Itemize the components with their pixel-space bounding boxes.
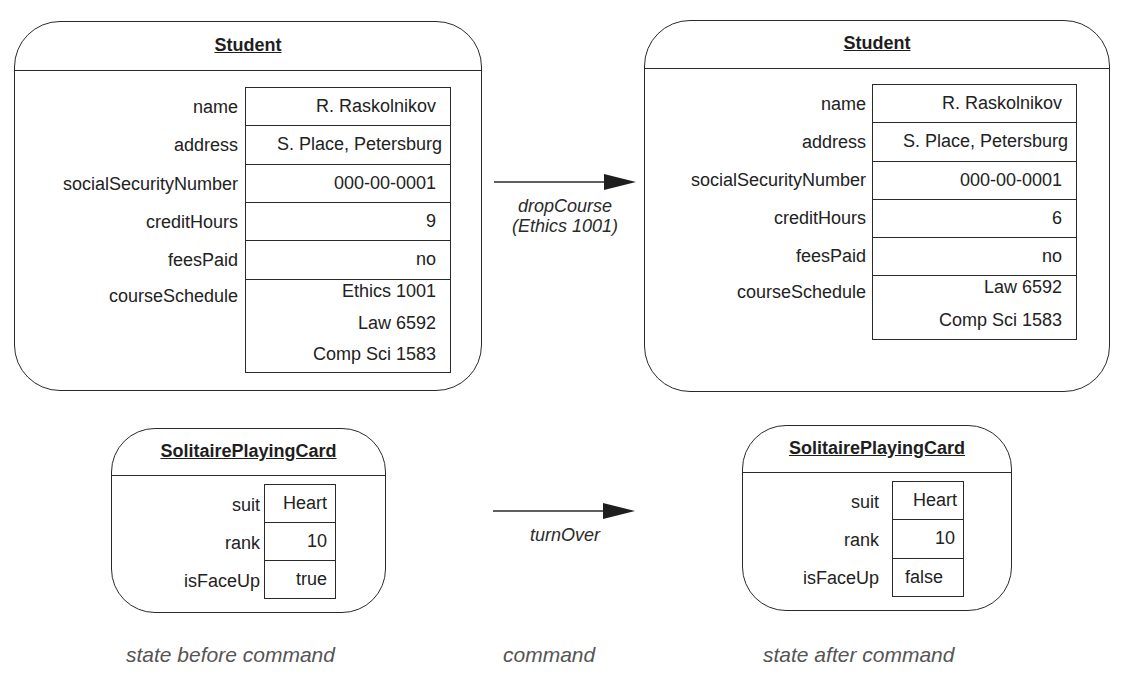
card-after-object: SolitairePlayingCard suit rank isFaceUp …: [742, 425, 1012, 611]
attr-label-ssn: socialSecurityNumber: [691, 170, 866, 191]
attribute-values-box: R. Raskolnikov S. Place, Petersburg 000-…: [872, 84, 1077, 340]
caption-state-after: state after command: [763, 643, 954, 667]
object-title: SolitairePlayingCard: [112, 441, 385, 462]
card-before-object: SolitairePlayingCard suit rank isFaceUp …: [111, 428, 386, 613]
attr-label-rank: rank: [844, 530, 879, 551]
object-title: Student: [15, 35, 481, 56]
command-label-turn-over: turnOver: [480, 525, 650, 545]
attr-label-rank: rank: [225, 533, 260, 554]
command-name: turnOver: [480, 525, 650, 545]
value-course-0: Ethics 1001: [246, 279, 450, 309]
value-suit: Heart: [265, 485, 335, 523]
value-fees-paid: no: [246, 240, 450, 279]
attr-label-fees-paid: feesPaid: [796, 246, 866, 267]
value-credit-hours: 6: [873, 199, 1076, 237]
title-divider: [14, 70, 482, 71]
title-divider: [111, 475, 386, 476]
value-course-1: Law 6592: [246, 308, 450, 338]
value-name: R. Raskolnikov: [246, 88, 450, 126]
student-before-object: Student name address socialSecurityNumbe…: [14, 21, 482, 391]
attr-label-suit: suit: [232, 495, 260, 516]
value-is-face-up: true: [265, 560, 335, 598]
value-address: S. Place, Petersburg: [246, 125, 450, 164]
object-title: SolitairePlayingCard: [743, 438, 1011, 459]
attr-label-is-face-up: isFaceUp: [803, 568, 879, 589]
value-credit-hours: 9: [246, 202, 450, 240]
value-is-face-up: false: [893, 558, 963, 596]
attr-label-suit: suit: [851, 492, 879, 513]
value-rank: 10: [893, 519, 963, 558]
arrow-right-icon: [490, 170, 640, 194]
command-label-drop-course: dropCourse (Ethics 1001): [480, 196, 650, 236]
value-rank: 10: [265, 522, 335, 561]
value-name: R. Raskolnikov: [873, 85, 1076, 123]
attr-label-name: name: [193, 97, 238, 118]
arrow-right-icon: [489, 499, 639, 523]
attr-label-is-face-up: isFaceUp: [184, 571, 260, 592]
title-divider: [742, 472, 1012, 473]
attribute-values-box: R. Raskolnikov S. Place, Petersburg 000-…: [245, 87, 451, 373]
value-course-2: Comp Sci 1583: [246, 338, 450, 370]
attr-label-course-schedule: courseSchedule: [737, 282, 866, 303]
attribute-values-box: Heart 10 false: [892, 481, 964, 597]
value-course-1: Comp Sci 1583: [873, 304, 1076, 336]
value-suit: Heart: [893, 482, 963, 520]
attr-label-credit-hours: creditHours: [146, 212, 238, 233]
command-name: dropCourse: [480, 196, 650, 216]
attr-label-address: address: [802, 132, 866, 153]
value-address: S. Place, Petersburg: [873, 122, 1076, 161]
value-fees-paid: no: [873, 237, 1076, 275]
caption-state-before: state before command: [126, 643, 335, 667]
attr-label-fees-paid: feesPaid: [168, 250, 238, 271]
caption-command: command: [503, 643, 595, 667]
attr-label-course-schedule: courseSchedule: [109, 286, 238, 307]
attr-label-credit-hours: creditHours: [774, 208, 866, 229]
student-after-object: Student name address socialSecurityNumbe…: [644, 20, 1110, 392]
object-title: Student: [645, 33, 1109, 54]
attr-label-name: name: [821, 94, 866, 115]
title-divider: [644, 68, 1110, 69]
value-ssn: 000-00-0001: [873, 161, 1076, 199]
value-course-0: Law 6592: [873, 275, 1076, 305]
attribute-values-box: Heart 10 true: [264, 484, 336, 599]
attr-label-ssn: socialSecurityNumber: [63, 174, 238, 195]
command-argument: (Ethics 1001): [480, 216, 650, 236]
attr-label-address: address: [174, 135, 238, 156]
value-ssn: 000-00-0001: [246, 164, 450, 202]
